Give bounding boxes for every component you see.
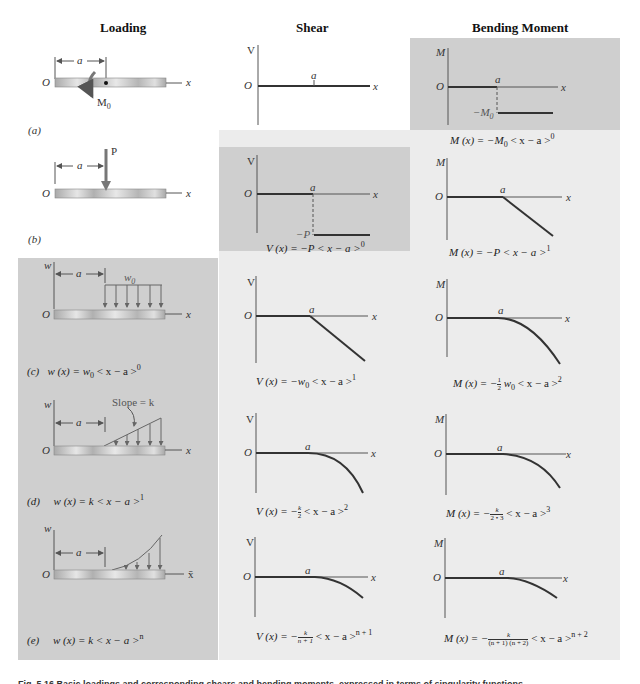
moment-b-axis-x: x [566, 191, 571, 203]
shear-d-a-label: a [305, 440, 311, 452]
loading-e-power [54, 530, 184, 579]
shear-c-plot [256, 276, 368, 363]
shear-c-axis-x: x [372, 310, 377, 322]
moment-d-axis-m: M [435, 413, 444, 425]
shear-d-plot [256, 413, 368, 493]
shear-e-axis-v: V [246, 536, 254, 548]
moment-b-origin: O [435, 190, 443, 202]
loading-c-uniform [54, 262, 182, 319]
axis-x-label-a: x [186, 76, 191, 88]
moment-a-axis-x: x [561, 81, 566, 93]
moment-e-a-label: a [499, 565, 505, 577]
loading-c-equation: (c) w (x) = w0 < x − a >0 [27, 363, 141, 380]
origin-label-d: O [42, 444, 50, 456]
axis-x-label-b: x [186, 187, 191, 199]
shear-b-axis-v: V [247, 155, 255, 167]
moment-e-axis-m: M [434, 537, 443, 549]
moment-c-axis-x: x [565, 312, 570, 324]
axis-w-label-c: w [44, 259, 51, 271]
shear-e-a-label: a [305, 564, 311, 576]
shear-a-plot [258, 45, 370, 125]
moment-a-level: −M0 [473, 106, 494, 121]
dim-label-b: a [77, 159, 83, 171]
shear-d-axis-x: x [371, 447, 376, 459]
moment-a-plot [448, 48, 558, 125]
axis-x-label-c: x [186, 308, 191, 320]
origin-label-a: O [42, 76, 50, 88]
figure-caption: Fig. 5.16 Basic loadings and correspondi… [18, 676, 618, 684]
moment-c-a-label: a [498, 304, 504, 316]
moment-d-equation: M (x) = −k2 • 3 < x − a >3 [446, 505, 550, 522]
shear-e-axis-x: x [371, 571, 376, 583]
shear-a-origin: O [244, 79, 252, 91]
shear-b-level: −P [296, 228, 310, 240]
moment-e-origin: O [433, 571, 441, 583]
shear-b-plot [257, 155, 370, 235]
moment-d-origin: O [434, 447, 442, 459]
moment-b-equation: M (x) = −P < x − a >1 [449, 244, 550, 258]
loading-d-equation: (d) w (x) = k < x − a >1 [27, 493, 144, 507]
loading-e-equation: (e) w (x) = k < x − a >n [27, 632, 143, 646]
loading-d-linear [54, 400, 182, 455]
shear-c-a-label: a [309, 303, 315, 315]
shear-e-origin: O [243, 570, 251, 582]
dim-label-a: a [77, 54, 83, 66]
moment-a-a-label: a [495, 73, 501, 85]
shear-b-a-label: a [310, 181, 316, 193]
case-tag-b: (b) [28, 233, 41, 245]
case-tag-a: (a) [28, 124, 41, 136]
uniform-load-label-w0: w0 [124, 271, 135, 286]
moment-e-equation: M (x) = −k(n + 1) (n + 2) < x − a >n + 2 [444, 630, 588, 647]
shear-b-origin: O [244, 187, 252, 199]
origin-label-c: O [42, 308, 50, 320]
moment-d-a-label: a [497, 441, 503, 453]
moment-d-axis-x: x [566, 448, 571, 460]
moment-c-equation: M (x) = −12 w0 < x − a >2 [453, 375, 562, 392]
loading-a-couple [55, 57, 182, 96]
moment-c-axis-m: M [436, 278, 445, 290]
shear-b-axis-x: x [373, 188, 378, 200]
origin-label-e: O [42, 568, 50, 580]
shear-b-equation: V (x) = −P < x − a >0 [266, 240, 365, 254]
slope-label: Slope = k [112, 396, 154, 408]
shear-c-equation: V (x) = −w0 < x − a >1 [256, 373, 356, 390]
shear-d-equation: V (x) = −k2 < x − a >2 [256, 503, 348, 520]
moment-a-equation: M (x) = −M0 < x − a >0 [450, 132, 554, 149]
moment-e-plot [445, 538, 562, 618]
shear-e-equation: V (x) = −kn + 1 < x − a >n + 1 [256, 628, 372, 645]
dim-label-c: a [76, 267, 82, 279]
shear-d-origin: O [244, 446, 252, 458]
diagram-graphics [0, 0, 640, 684]
axis-xbar-label-e: x̄ [188, 568, 194, 580]
shear-a-axis-v: V [247, 44, 255, 56]
origin-label-b: O [42, 187, 50, 199]
moment-d-plot [446, 414, 566, 495]
loading-b-point [55, 149, 182, 198]
shear-a-a-label: a [311, 69, 317, 81]
moment-b-axis-m: M [436, 156, 445, 168]
moment-a-axis-m: M [436, 46, 445, 58]
axis-w-label-d: w [44, 398, 51, 410]
moment-c-plot [447, 279, 562, 364]
moment-c-origin: O [435, 311, 443, 323]
dim-label-e: a [76, 546, 82, 558]
couple-label-m0: M0 [97, 96, 111, 111]
shear-d-axis-v: V [246, 413, 254, 425]
moment-a-origin: O [436, 80, 444, 92]
shear-c-axis-v: V [247, 276, 255, 288]
dim-label-d: a [76, 416, 82, 428]
moment-b-plot [447, 158, 562, 240]
axis-x-label-d: x [186, 444, 191, 456]
moment-e-axis-x: x [563, 572, 568, 584]
shear-e-plot [255, 537, 368, 617]
point-load-label-p: P [111, 145, 117, 157]
moment-b-a-label: a [500, 183, 506, 195]
shear-a-axis-x: x [373, 80, 378, 92]
axis-w-label-e: w [44, 522, 51, 534]
shear-c-origin: O [244, 309, 252, 321]
